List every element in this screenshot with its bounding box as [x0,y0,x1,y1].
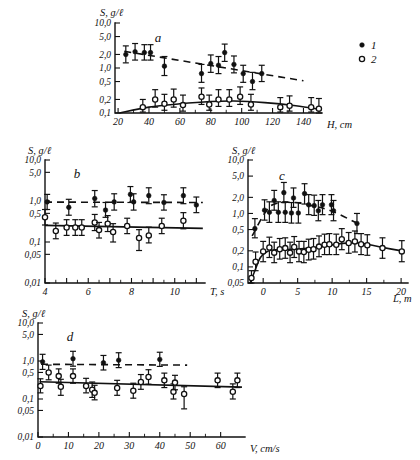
panel-c-xticklabel: 15 [362,286,372,297]
data-point [208,55,214,72]
marker-open-circle [58,384,63,389]
marker-open-circle [278,105,283,110]
data-point [271,190,277,210]
data-point [105,216,111,232]
panel-a-yticklabel: 2,0 [99,50,111,60]
marker-open-circle [111,229,116,234]
marker-filled-circle [296,211,301,216]
panel-c-xlabel: L, m [392,293,412,304]
marker-open-circle [283,245,288,250]
panel-b-yticklabel: 10,0 [24,155,41,165]
marker-filled-circle [241,71,246,76]
marker-filled-circle [289,211,294,216]
panel-a-xticklabel: 60 [175,116,185,127]
data-point [152,90,158,107]
panel-d-yticklabel: 0,01 [17,432,34,442]
data-point [275,202,281,223]
marker-filled-circle [232,62,237,67]
panel-b-xticklabel: 8 [129,286,134,297]
marker-filled-circle [103,208,108,213]
panel-d-ylabel: S, ɡ/ℓ [22,308,46,319]
marker-open-circle [199,94,204,99]
data-point [124,218,130,233]
marker-open-circle [125,223,130,228]
data-point [193,197,199,213]
panel-a-trend-1 [124,51,303,80]
marker-filled-circle [66,205,71,210]
panel-b-ylabel: S, ɡ/ℓ [28,145,52,156]
data-point [161,195,167,210]
marker-open-circle [138,379,143,384]
panel-a-yticklabel: 10,0 [94,18,111,28]
data-point [114,380,120,395]
marker-filled-circle [181,193,186,198]
panel-d-series-1 [40,351,188,370]
marker-open-circle [146,374,151,379]
marker-open-circle [272,250,277,255]
marker-filled-circle [157,357,162,362]
panel-c-ylabel: S, ɡ/ℓ [232,145,256,156]
marker-open-circle [399,249,404,254]
data-point [358,234,364,255]
marker-filled-circle [142,50,147,55]
panel-a-xticklabel: 40 [144,116,154,127]
panel-b-xticklabel: 6 [86,286,91,297]
panel-b-yticklabel: 0,5 [29,209,41,219]
marker-filled-circle [306,203,311,208]
panel-c-yticklabel: 0,5 [232,225,244,235]
marker-open-circle [172,380,177,385]
marker-filled-circle [253,226,258,231]
data-point [123,46,129,63]
marker-filled-circle [146,193,151,198]
data-point [100,355,106,370]
panel-d-xticklabel: 10 [63,440,73,451]
marker-open-circle [70,374,75,379]
figure-root: 10,05,02,01,00,50,20,120406080100120140S… [0,0,420,460]
data-point [379,238,385,258]
marker-open-circle [53,228,58,233]
panel-d-yticklabel: 1,0 [22,356,34,366]
panel-d-yticklabel: 0,05 [17,406,34,416]
legend-label: 1 [371,39,377,51]
data-point [399,241,405,262]
marker-open-circle [287,103,292,108]
marker-filled-circle [162,64,167,69]
data-point [70,369,76,383]
data-point [311,238,317,259]
marker-filled-circle [312,203,317,208]
marker-filled-circle [267,210,272,215]
marker-filled-circle [316,209,321,214]
marker-open-circle [162,378,167,383]
panel-a-xticklabel: 20 [113,116,123,127]
data-point [140,99,146,112]
marker-open-circle [230,389,235,394]
panel-c-yticklabel: 0,2 [232,246,244,256]
marker-filled-circle [222,50,227,55]
marker-filled-circle [302,191,307,196]
panel-b-yticklabel: 0,01 [24,278,41,288]
panel-a-xticklabel: 80 [206,116,216,127]
panel-b-yticklabel: 0,1 [29,237,41,247]
marker-open-circle [46,370,51,375]
marker-open-circle [287,250,292,255]
data-point [180,188,186,204]
legend-label: 2 [371,53,377,65]
data-point [92,191,98,207]
marker-open-circle [153,97,158,102]
panel-d-series-2 [37,365,242,409]
marker-open-circle [253,259,258,264]
data-point [253,252,259,271]
marker-filled-circle [92,196,97,201]
marker-filled-circle [199,71,204,76]
panel-d-xticklabel: 20 [94,440,104,451]
data-point [40,354,46,369]
marker-open-circle [311,247,316,252]
marker-open-circle [238,94,243,99]
marker-open-circle [181,218,186,223]
marker-open-circle [182,391,187,396]
marker-open-circle [105,221,110,226]
marker-open-circle [316,244,321,249]
panel-d-xticklabel: 30 [123,440,134,451]
marker-open-circle [162,101,167,106]
data-point [146,227,152,243]
